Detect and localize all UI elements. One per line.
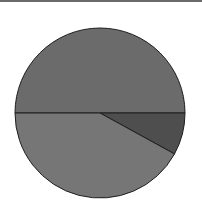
pie-slice-1 [15, 28, 185, 113]
pie-chart [0, 0, 202, 216]
